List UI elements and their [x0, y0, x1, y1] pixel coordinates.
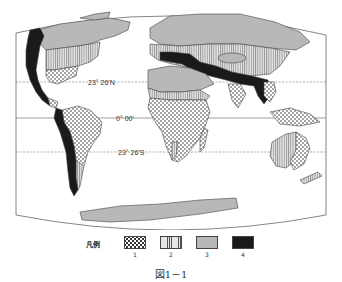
- legend-label: 4: [232, 251, 254, 258]
- latitude-label-equator: 0° 00′: [116, 115, 134, 122]
- latitude-label-tropic-capricorn: 23° 26′S: [118, 149, 145, 156]
- world-map: 23° 26′N 0° 00′ 23° 26′S: [0, 0, 342, 230]
- figure-caption: 図1－1: [0, 266, 342, 281]
- gray-swatch: [196, 236, 218, 249]
- black-swatch: [232, 236, 254, 249]
- legend-item-2: 2: [160, 236, 184, 264]
- legend-item-3: 3: [196, 236, 220, 264]
- legend-item-4: 4: [232, 236, 256, 264]
- legend-label: 1: [124, 251, 146, 258]
- latitude-label-tropic-cancer: 23° 26′N: [88, 79, 115, 86]
- legend-label: 2: [160, 251, 182, 258]
- legend-title: 凡例: [86, 239, 100, 249]
- vertical-lines-swatch: [160, 236, 182, 249]
- legend-label: 3: [196, 251, 218, 258]
- legend-item-1: 1: [124, 236, 148, 264]
- legend: 凡例 1 2 3 4: [86, 236, 326, 266]
- dotted-swatch: [124, 236, 146, 249]
